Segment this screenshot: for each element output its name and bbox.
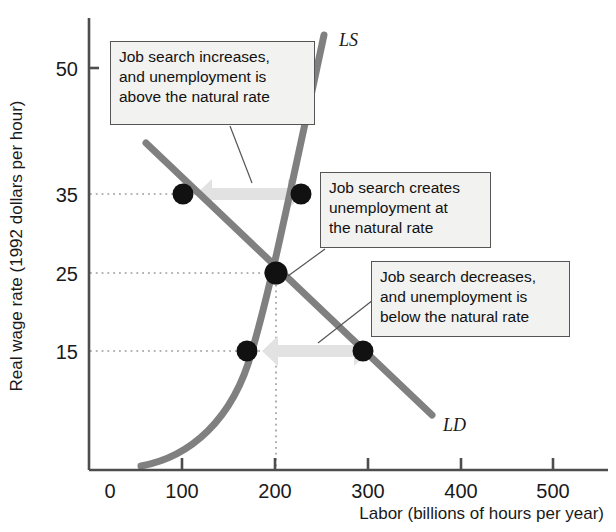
callout-above-natural-rate: Job search increases, and unemployment i… bbox=[110, 41, 315, 125]
economics-labor-market-figure: 0 100 200 300 400 500 50 35 25 15 Real w… bbox=[0, 0, 616, 532]
x-tick-labels: 0 100 200 300 400 500 bbox=[104, 480, 569, 502]
marker-ld-wage35 bbox=[173, 184, 194, 205]
x-tick-label-500: 500 bbox=[536, 480, 569, 502]
marker-ld-wage15 bbox=[353, 341, 374, 362]
labor-demand-label: LD bbox=[442, 415, 466, 435]
callout-below-natural-rate: Job search decreases, and unemployment i… bbox=[371, 261, 570, 337]
y-tick-label-50: 50 bbox=[56, 58, 78, 80]
y-tick-label-35: 35 bbox=[56, 184, 78, 206]
x-tick-label-0: 0 bbox=[104, 480, 115, 502]
y-tick-label-25: 25 bbox=[56, 263, 78, 285]
x-tick-label-400: 400 bbox=[444, 480, 477, 502]
callout-at-natural-rate: Job search creates unemployment at the n… bbox=[320, 172, 491, 248]
marker-equilibrium bbox=[265, 262, 288, 285]
x-tick-label-300: 300 bbox=[351, 480, 384, 502]
x-tick-label-100: 100 bbox=[165, 480, 198, 502]
y-tick-label-15: 15 bbox=[56, 341, 78, 363]
x-axis-title: Labor (billions of hours per year) bbox=[359, 504, 604, 523]
x-tick-label-200: 200 bbox=[258, 480, 291, 502]
y-axis-title: Real wage rate (1992 dollars per hour) bbox=[7, 100, 26, 391]
leader-line-at bbox=[288, 249, 325, 276]
y-tick-labels: 50 35 25 15 bbox=[56, 58, 78, 363]
labor-supply-label: LS bbox=[338, 30, 358, 50]
marker-ls-wage35 bbox=[291, 184, 312, 205]
marker-ls-wage15 bbox=[237, 341, 258, 362]
leader-line-above bbox=[230, 126, 252, 183]
